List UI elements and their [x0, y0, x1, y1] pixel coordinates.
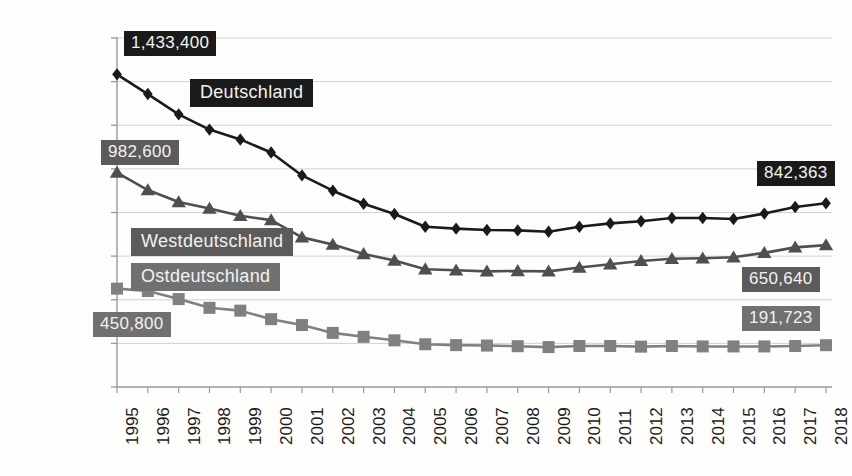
value-label-ostdeutschland-2018: 191,723	[742, 306, 820, 331]
x-axis-tick-label: 1996	[154, 407, 174, 445]
x-axis-tick-label: 2007	[493, 407, 513, 445]
x-axis-tick-label: 2005	[431, 407, 451, 445]
x-axis-tick-label: 1997	[185, 407, 205, 445]
value-label-westdeutschland-1995: 982,600	[101, 140, 179, 165]
x-axis-tick-label: 2009	[555, 407, 575, 445]
series-label-westdeutschland: Westdeutschland	[131, 228, 293, 256]
x-axis-tick-label: 1995	[123, 407, 143, 445]
x-axis-tick-label: 2014	[709, 407, 729, 445]
x-axis-tick-label: 2010	[585, 407, 605, 445]
x-axis-tick-label: 2011	[616, 408, 636, 445]
value-label-ostdeutschland-1995: 450,800	[93, 312, 171, 337]
x-axis-tick-label: 2004	[400, 407, 420, 445]
x-axis-tick-label: 2002	[339, 407, 359, 445]
x-axis-tick-label: 1999	[246, 407, 266, 445]
value-label-westdeutschland-2018: 650,640	[742, 267, 820, 292]
x-axis-tick-label: 2016	[770, 407, 790, 445]
x-axis-tick-label: 2000	[277, 407, 297, 445]
x-axis-tick-label: 2008	[524, 407, 544, 445]
series-label-deutschland: Deutschland	[190, 79, 313, 107]
x-axis-tick-label: 1998	[215, 407, 235, 445]
x-axis-tick-label: 2001	[308, 407, 328, 445]
value-label-deutschland-2018: 842,363	[757, 161, 835, 186]
x-axis-tick-label: 2003	[370, 407, 390, 445]
x-axis-tick-label: 2015	[740, 407, 760, 445]
x-axis-tick-label: 2006	[462, 407, 482, 445]
x-axis-tick-label: 2012	[647, 407, 667, 445]
x-axis-tick-label: 2013	[678, 407, 698, 445]
series-label-ostdeutschland: Ostdeutschland	[131, 263, 280, 291]
x-axis-tick-label: 2018	[832, 407, 852, 445]
value-label-deutschland-1995: 1,433,400	[124, 31, 216, 56]
x-axis-tick-label: 2017	[801, 407, 821, 445]
